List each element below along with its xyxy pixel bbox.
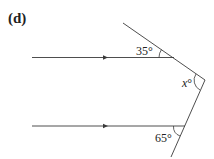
angle-arc-35 bbox=[159, 50, 162, 58]
angle-label-bottom: 65° bbox=[155, 131, 172, 145]
bottom-arrow-icon bbox=[103, 124, 108, 128]
top-arrow-icon bbox=[103, 55, 108, 59]
angle-label-apex: x° bbox=[181, 76, 192, 90]
parallel-lines-diagram: (d) 35° x° 65° bbox=[0, 0, 214, 159]
angle-label-top: 35° bbox=[136, 44, 153, 58]
angle-arc-65 bbox=[173, 126, 180, 136]
lower-transversal bbox=[171, 80, 205, 157]
part-label: (d) bbox=[8, 10, 26, 27]
